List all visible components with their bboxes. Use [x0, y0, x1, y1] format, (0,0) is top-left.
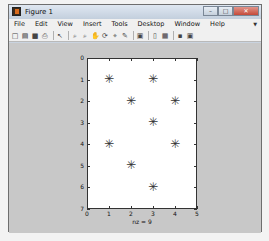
toolbar-separator: [53, 31, 54, 40]
y-tick-mark: [87, 101, 90, 102]
close-button[interactable]: ✕: [233, 6, 259, 16]
zoom-in-icon[interactable]: ⌕: [71, 32, 79, 40]
hide-plot-tools-icon[interactable]: ▪: [176, 32, 184, 40]
menu-edit[interactable]: Edit: [30, 19, 53, 30]
minimize-button[interactable]: –: [203, 6, 218, 16]
print-icon[interactable]: ⎙: [41, 32, 49, 40]
menu-window[interactable]: Window: [169, 19, 205, 30]
y-tick-mark: [194, 187, 197, 188]
y-tick-mark: [194, 123, 197, 124]
data-point-marker: ✳: [170, 96, 181, 107]
data-point-marker: ✳: [126, 160, 137, 171]
y-tick-mark: [194, 166, 197, 167]
data-point-marker: ✳: [104, 139, 115, 150]
menu-view[interactable]: View: [52, 19, 77, 30]
toolbar-separator: [68, 31, 69, 40]
y-tick-mark: [194, 80, 197, 81]
save-icon[interactable]: ■: [31, 32, 39, 40]
menu-bar: File Edit View Insert Tools Desktop Wind…: [9, 19, 261, 30]
maximize-button[interactable]: □: [218, 6, 233, 16]
x-tick-mark: [131, 206, 132, 209]
show-plot-tools-icon[interactable]: ▣: [186, 32, 194, 40]
x-tick-label: 4: [170, 210, 180, 217]
data-point-marker: ✳: [170, 139, 181, 150]
toolbar-separator: [173, 31, 174, 40]
x-tick-label: 2: [126, 210, 136, 217]
x-tick-mark: [131, 58, 132, 61]
data-point-marker: ✳: [126, 96, 137, 107]
x-tick-mark: [87, 58, 88, 61]
figure-toolbar: □ ▤ ■ ⎙ ↖ ⌕ ⌕ ✋ ⟳ ⌖ ✎ ▣ ▯ ▦ ▪ ▣: [9, 30, 261, 42]
new-figure-icon[interactable]: □: [11, 32, 19, 40]
y-tick-mark: [87, 80, 90, 81]
menu-desktop[interactable]: Desktop: [133, 19, 170, 30]
y-tick-label: 3: [74, 119, 84, 126]
x-tick-mark: [109, 206, 110, 209]
colorbar-icon[interactable]: ▯: [151, 32, 159, 40]
toolbar-separator: [148, 31, 149, 40]
open-file-icon[interactable]: ▤: [21, 32, 29, 40]
edit-plot-icon[interactable]: ↖: [56, 32, 64, 40]
x-tick-label: 3: [148, 210, 158, 217]
x-axis-label: nz = 9: [122, 218, 162, 225]
matlab-icon: [12, 7, 21, 16]
data-point-marker: ✳: [104, 74, 115, 85]
x-tick-label: 0: [82, 210, 92, 217]
menu-tools[interactable]: Tools: [107, 19, 133, 30]
y-tick-mark: [87, 144, 90, 145]
rotate-3d-icon[interactable]: ⟳: [101, 32, 109, 40]
x-tick-label: 1: [104, 210, 114, 217]
x-tick-mark: [175, 206, 176, 209]
y-tick-label: 4: [74, 140, 84, 147]
data-point-marker: ✳: [148, 182, 159, 193]
y-tick-mark: [87, 123, 90, 124]
x-tick-mark: [153, 206, 154, 209]
figure-canvas: 01234567012345nz = 9✳✳✳✳✳✳✳✳✳: [9, 43, 261, 233]
pan-icon[interactable]: ✋: [91, 32, 99, 40]
y-tick-label: 1: [74, 76, 84, 83]
y-tick-label: 6: [74, 183, 84, 190]
data-point-marker: ✳: [148, 74, 159, 85]
y-tick-label: 2: [74, 97, 84, 104]
menu-help[interactable]: Help: [205, 19, 230, 30]
x-tick-label: 5: [192, 210, 202, 217]
data-cursor-icon[interactable]: ⌖: [111, 32, 119, 40]
x-tick-mark: [153, 58, 154, 61]
y-tick-mark: [87, 187, 90, 188]
x-tick-mark: [197, 206, 198, 209]
x-tick-mark: [197, 58, 198, 61]
x-tick-mark: [175, 58, 176, 61]
toolbar-separator: [133, 31, 134, 40]
menu-insert[interactable]: Insert: [78, 19, 107, 30]
zoom-out-icon[interactable]: ⌕: [81, 32, 89, 40]
title-bar[interactable]: Figure 1 – □ ✕: [9, 5, 261, 19]
dock-arrow-icon[interactable]: ▼: [253, 21, 257, 27]
y-tick-label: 5: [74, 162, 84, 169]
window-title: Figure 1: [25, 6, 53, 18]
menu-file[interactable]: File: [9, 19, 30, 30]
y-tick-mark: [194, 144, 197, 145]
legend-icon[interactable]: ▦: [161, 32, 169, 40]
figure-window: Figure 1 – □ ✕ File Edit View Insert Too…: [8, 4, 262, 232]
x-tick-mark: [87, 206, 88, 209]
y-tick-mark: [194, 101, 197, 102]
brush-icon[interactable]: ✎: [121, 32, 129, 40]
data-point-marker: ✳: [148, 117, 159, 128]
x-tick-mark: [109, 58, 110, 61]
y-tick-label: 0: [74, 54, 84, 61]
y-tick-mark: [87, 166, 90, 167]
link-plot-icon[interactable]: ▣: [136, 32, 144, 40]
